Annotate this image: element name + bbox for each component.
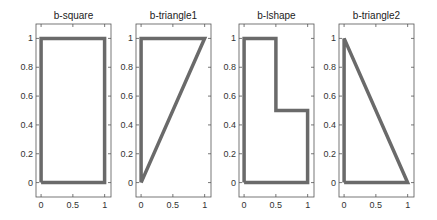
x-tick-label: 0.5 bbox=[167, 200, 180, 210]
y-tick-label: 0.4 bbox=[20, 120, 33, 130]
x-tick-label: 0.5 bbox=[67, 200, 80, 210]
y-tick-label: 0.4 bbox=[223, 120, 236, 130]
y-tick-label: 0.8 bbox=[20, 62, 33, 72]
x-tick-label: 1 bbox=[102, 200, 107, 210]
y-tick-label: 0.2 bbox=[223, 149, 236, 159]
x-tick-label: 0 bbox=[139, 200, 144, 210]
y-tick-label: 0.6 bbox=[120, 91, 133, 101]
subplot-b-lshape: b-lshape00.20.40.60.8100.51 bbox=[223, 10, 314, 210]
y-tick-label: 1 bbox=[28, 33, 33, 43]
y-tick-label: 0.2 bbox=[20, 149, 33, 159]
y-tick-label: 0 bbox=[28, 178, 33, 188]
x-tick-label: 1 bbox=[405, 200, 410, 210]
y-tick-label: 0.6 bbox=[323, 91, 336, 101]
y-tick-label: 0.6 bbox=[20, 91, 33, 101]
y-tick-label: 0.2 bbox=[323, 149, 336, 159]
y-tick-label: 0.2 bbox=[120, 149, 133, 159]
x-tick-label: 0.5 bbox=[370, 200, 383, 210]
y-tick-label: 0 bbox=[331, 178, 336, 188]
subplot-b-triangle1: b-triangle100.20.40.60.8100.51 bbox=[120, 10, 211, 210]
subplot-b-square: b-square00.20.40.60.8100.51 bbox=[20, 10, 111, 210]
y-tick-label: 0 bbox=[231, 178, 236, 188]
y-tick-label: 1 bbox=[128, 33, 133, 43]
y-tick-label: 0.8 bbox=[120, 62, 133, 72]
y-tick-label: 1 bbox=[331, 33, 336, 43]
x-tick-label: 1 bbox=[202, 200, 207, 210]
y-tick-label: 0.6 bbox=[223, 91, 236, 101]
x-tick-label: 0.5 bbox=[270, 200, 283, 210]
y-tick-label: 0.4 bbox=[120, 120, 133, 130]
y-tick-label: 0.4 bbox=[323, 120, 336, 130]
subplot-title: b-triangle2 bbox=[353, 10, 401, 21]
axes-box bbox=[36, 24, 111, 197]
figure: b-square00.20.40.60.8100.51b-triangle100… bbox=[0, 0, 437, 220]
x-tick-label: 0 bbox=[242, 200, 247, 210]
subplot-b-triangle2: b-triangle200.20.40.60.8100.51 bbox=[323, 10, 414, 210]
y-tick-label: 0.8 bbox=[223, 62, 236, 72]
y-tick-label: 0.8 bbox=[323, 62, 336, 72]
y-tick-label: 0 bbox=[128, 178, 133, 188]
subplot-title: b-square bbox=[54, 10, 94, 21]
subplot-title: b-lshape bbox=[257, 10, 296, 21]
subplot-title: b-triangle1 bbox=[150, 10, 198, 21]
y-tick-label: 1 bbox=[231, 33, 236, 43]
x-tick-label: 0 bbox=[39, 200, 44, 210]
x-tick-label: 0 bbox=[342, 200, 347, 210]
x-tick-label: 1 bbox=[305, 200, 310, 210]
